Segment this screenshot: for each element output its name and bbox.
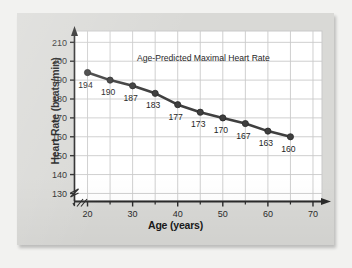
data-point-marker xyxy=(242,120,248,126)
data-point-label: 183 xyxy=(146,100,161,110)
data-point-marker xyxy=(175,102,181,108)
data-point-label: 170 xyxy=(214,125,229,135)
data-point-marker xyxy=(130,83,136,89)
data-point-label: 160 xyxy=(281,144,296,154)
x-tick-label: 60 xyxy=(263,209,273,219)
data-point-marker xyxy=(197,109,203,115)
y-axis-title: Heart Rate (beats/min) xyxy=(49,26,61,196)
x-tick-label: 70 xyxy=(308,209,318,219)
data-point-marker xyxy=(220,115,226,121)
data-point-marker xyxy=(265,128,271,134)
x-axis-title: Age (years) xyxy=(17,219,334,231)
x-tick-label: 30 xyxy=(128,209,138,219)
data-point-marker xyxy=(152,90,158,96)
chart-annotation: Age-Predicted Maximal Heart Rate xyxy=(137,53,270,63)
data-point-label: 173 xyxy=(191,119,206,129)
x-tick-label: 40 xyxy=(173,209,183,219)
chart-plot-area: 130140150160170180190200210 203040506070… xyxy=(17,13,334,245)
x-axis-tick-labels: 203040506070 xyxy=(83,209,318,219)
screenshot-root: 130140150160170180190200210 203040506070… xyxy=(0,0,352,268)
x-axis-arrow-icon xyxy=(321,198,331,205)
data-point-marker xyxy=(287,134,293,140)
x-tick-label: 20 xyxy=(83,209,93,219)
data-point-label: 187 xyxy=(123,93,138,103)
data-point-label: 167 xyxy=(236,131,251,141)
figure-card: 130140150160170180190200210 203040506070… xyxy=(17,13,334,245)
data-point-label: 194 xyxy=(78,80,93,90)
data-point-marker xyxy=(84,69,90,75)
data-point-marker xyxy=(107,77,113,83)
data-point-label: 177 xyxy=(169,112,184,122)
data-point-label: 190 xyxy=(101,87,116,97)
x-tick-label: 50 xyxy=(218,209,228,219)
data-point-label: 163 xyxy=(259,138,274,148)
y-axis-ticks xyxy=(70,42,74,193)
